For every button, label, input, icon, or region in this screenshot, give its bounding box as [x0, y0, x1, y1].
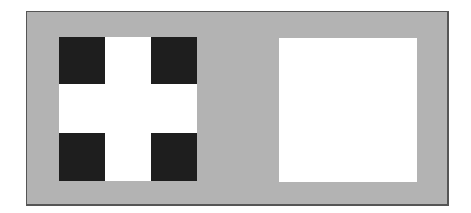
white-square-panel [279, 38, 417, 182]
dark-square-top-right [151, 37, 197, 84]
dark-square-top-left [59, 37, 105, 84]
dark-square-bottom-left [59, 133, 105, 181]
dark-square-bottom-right [151, 133, 197, 181]
cross-pattern-panel [59, 37, 197, 181]
